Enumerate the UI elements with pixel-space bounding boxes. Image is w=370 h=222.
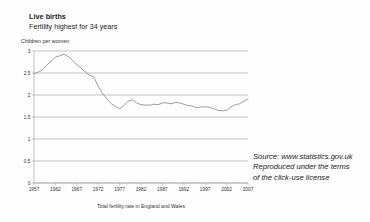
gridlines-group bbox=[32, 51, 248, 183]
y-tick-label: 2.5 bbox=[24, 71, 31, 76]
x-tick-label: 1972 bbox=[93, 187, 104, 192]
x-tick-label: 1977 bbox=[114, 187, 125, 192]
x-tick-label: 1987 bbox=[157, 187, 168, 192]
source-line-1: Source: www.statistics.gov.uk bbox=[253, 152, 352, 162]
chart-figure: Live births Fertility highest for 34 yea… bbox=[0, 0, 370, 222]
y-tick-label: 2 bbox=[28, 93, 31, 98]
chart-plot-area: 32.521.510.50 19571962196719721977198219… bbox=[0, 0, 370, 222]
x-tick-marks-group bbox=[34, 183, 248, 185]
x-tick-label: 1997 bbox=[200, 187, 211, 192]
x-tick-label: 1982 bbox=[136, 187, 147, 192]
source-line-2: Reproduced under the terms bbox=[253, 162, 352, 172]
data-series-line bbox=[34, 54, 248, 111]
x-tick-label: 2007 bbox=[243, 187, 254, 192]
x-tick-label: 1962 bbox=[50, 187, 61, 192]
x-tick-label: 1967 bbox=[71, 187, 82, 192]
x-axis-caption: Total fertility rate in England and Wale… bbox=[34, 203, 248, 209]
y-tick-label: 3 bbox=[28, 49, 31, 54]
x-tick-label: 1957 bbox=[29, 187, 40, 192]
source-line-3: of the click-use license bbox=[253, 173, 352, 183]
x-tick-label: 2002 bbox=[221, 187, 232, 192]
y-tick-label: 0 bbox=[28, 181, 31, 186]
y-tick-labels-group: 32.521.510.50 bbox=[24, 49, 31, 186]
x-tick-labels-group: 1957196219671972197719821987199219972002… bbox=[29, 187, 254, 192]
y-tick-label: 0.5 bbox=[24, 159, 31, 164]
y-tick-label: 1.5 bbox=[24, 115, 31, 120]
source-note: Source: www.statistics.gov.uk Reproduced… bbox=[253, 152, 352, 183]
x-tick-label: 1992 bbox=[178, 187, 189, 192]
y-tick-label: 1 bbox=[28, 137, 31, 142]
